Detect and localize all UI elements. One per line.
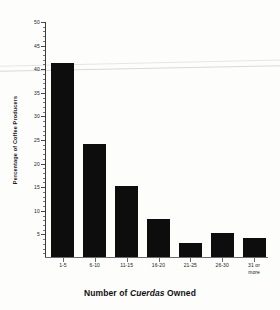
bar [211,233,234,257]
bar [115,186,138,257]
y-tick-label: 25 [34,137,40,143]
bar [147,219,170,257]
bar [83,144,106,257]
bar [51,63,74,257]
y-tick-label: 30 [34,113,40,119]
x-tick-label: 6-10 [79,262,111,269]
y-tick-label: 40 [34,66,40,72]
y-tick-label: 45 [34,43,40,49]
x-axis-title-italic-term: Cuerdas [130,288,165,298]
bar [179,243,202,257]
x-tick-label: 16-20 [143,262,175,269]
bar-series [45,22,268,257]
y-tick-label: 5 [37,231,40,237]
x-axis-tick-labels: 1-56-1011-1516-2021-2526-3031 ormore [45,262,268,286]
bar [243,238,266,257]
y-tick-label: 35 [34,90,40,96]
x-tick-label: 1-5 [47,262,79,269]
x-tick-label: 21-25 [174,262,206,269]
x-tick-label: 26-30 [206,262,238,269]
x-axis-title: Number of Cuerdas Owned [0,288,280,298]
x-tick-label: 11-15 [111,262,143,269]
y-tick-label: 10 [34,208,40,214]
y-axis-title: Percentage of Coffee Producers [12,22,22,258]
y-tick-label: 15 [34,184,40,190]
y-tick-label: 50 [34,19,40,25]
x-tick-label: 31 ormore [238,262,270,275]
y-tick-label: 20 [34,161,40,167]
bar-chart-figure: Percentage of Coffee Producers 510152025… [0,0,280,310]
plot-area: 5101520253035404550 [45,22,268,258]
x-axis-line [45,257,268,258]
